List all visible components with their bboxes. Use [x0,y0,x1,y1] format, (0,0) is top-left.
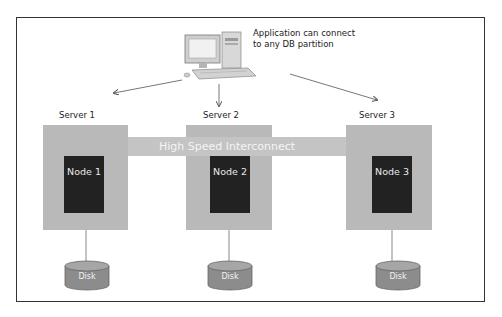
node-1-label: Node 1 [67,166,101,177]
server-3-label: Server 3 [359,110,395,120]
node-1: Node 1 [64,156,104,213]
desktop-computer-icon [184,32,256,79]
server-1-label: Server 1 [59,110,95,120]
interconnect-label-text: High Speed Interconnect [159,140,295,153]
server-2-label: Server 2 [203,110,239,120]
client-caption-line-2: to any DB partition [253,39,355,50]
node-3-label: Node 3 [375,166,409,177]
arrow-to-server-3 [290,74,377,100]
arrow-to-server-1 [114,80,182,93]
disk-1-label: Disk [65,272,109,281]
disk-2-label: Disk [208,272,252,281]
node-3: Node 3 [372,156,412,213]
disk-3-label: Disk [376,272,420,281]
node-2: Node 2 [210,156,250,213]
node-2-label: Node 2 [213,166,247,177]
interconnect-label-overlay: High Speed Interconnect [128,137,346,156]
client-caption-line-1: Application can connect [253,28,355,39]
client-caption: Application can connect to any DB partit… [253,28,355,50]
